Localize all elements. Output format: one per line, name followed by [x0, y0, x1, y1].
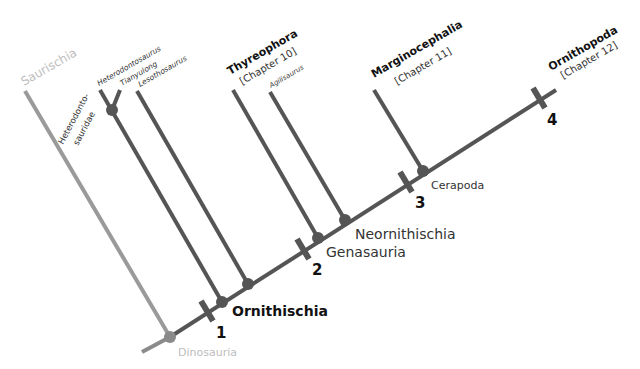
- neornithischia-node: [339, 214, 351, 226]
- lesothosaurus-node: [242, 278, 254, 290]
- cerapoda-label: Cerapoda: [431, 179, 484, 192]
- tick-label-2: 2: [312, 261, 322, 279]
- saurischia-label: Saurischia: [19, 45, 80, 88]
- genasauria-label: Genasauria: [326, 244, 406, 260]
- marginocephalia-branch: [374, 90, 423, 171]
- ornithischia-node: [216, 296, 228, 308]
- thyreophora-branch: [233, 90, 318, 238]
- saurischia-branch: [25, 91, 170, 337]
- heterodontosauridae-branch: [100, 90, 222, 302]
- heterodontosauridae-node: [106, 104, 118, 116]
- tick-label-3: 3: [415, 194, 425, 212]
- main-trunk: [170, 90, 556, 337]
- dinosauria-label: Dinosauria: [178, 346, 237, 359]
- lesothosaurus-branch: [137, 91, 248, 284]
- ornithischia-label: Ornithischia: [232, 303, 328, 319]
- neornithischia-label: Neornithischia: [355, 226, 456, 242]
- dinosauria-node: [164, 331, 176, 343]
- cerapoda-node: [417, 165, 429, 177]
- cladogram: 1 2 3 4 Dinosauria Ornithischia Genasaur…: [0, 0, 640, 369]
- tick-label-4: 4: [547, 111, 557, 129]
- genasauria-node: [312, 232, 324, 244]
- agilisaurus-branch: [270, 92, 345, 220]
- tick-label-1: 1: [216, 324, 226, 342]
